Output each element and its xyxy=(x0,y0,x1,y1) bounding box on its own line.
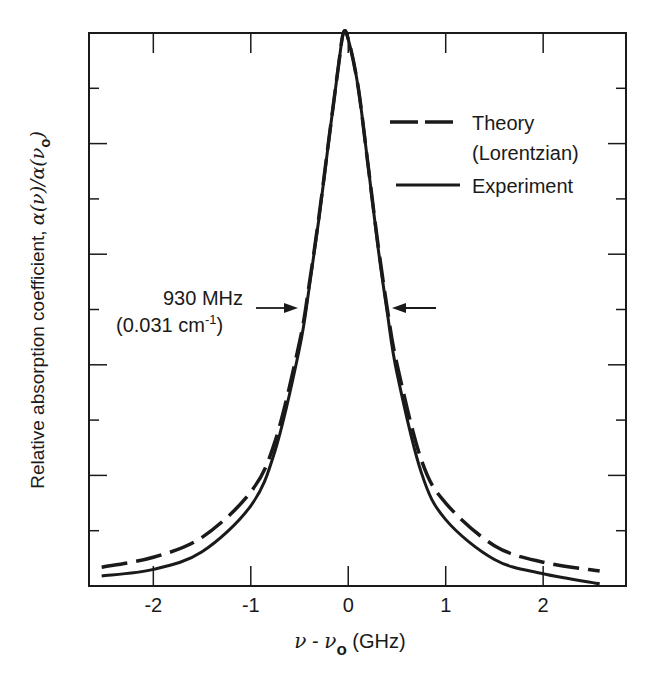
right-arrow-icon xyxy=(392,303,436,313)
x-tick-labels: -2-1012 xyxy=(144,594,548,616)
x-tick-label: -2 xyxy=(144,594,162,616)
x-axis-label: ν - νo (GHz) xyxy=(294,629,405,659)
x-tick-label: -1 xyxy=(242,594,260,616)
legend: Theory (Lorentzian) Experiment xyxy=(390,112,579,197)
fwhm-mhz-label: 930 MHz xyxy=(163,287,243,309)
x-tick-label: 1 xyxy=(440,594,451,616)
legend-theory-label: Theory xyxy=(472,112,534,134)
legend-experiment-label: Experiment xyxy=(472,175,574,197)
legend-theory-sublabel: (Lorentzian) xyxy=(472,142,579,164)
x-tick-label: 0 xyxy=(343,594,354,616)
fwhm-wavenumber-label: (0.031 cm-1) xyxy=(116,312,223,336)
left-arrow-icon xyxy=(256,303,298,313)
y-axis-label: Relative absorption coefficient, α(ν)/α(… xyxy=(26,131,53,489)
plot-frame xyxy=(89,33,626,586)
axis-ticks xyxy=(89,33,626,586)
x-tick-label: 2 xyxy=(538,594,549,616)
absorption-line-chart: -2-1012 Theory (Lorentzian) Experiment 9… xyxy=(0,0,652,691)
